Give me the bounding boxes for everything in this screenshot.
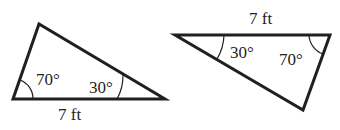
right-angle-30-label: 30° xyxy=(230,43,254,62)
right-side-label: 7 ft xyxy=(249,9,272,28)
right-triangle: 30° 70° 7 ft xyxy=(175,9,330,110)
right-angle-70-label: 70° xyxy=(279,50,303,69)
right-angle-arc-70 xyxy=(309,35,323,54)
triangles-diagram: 70° 30° 7 ft 30° 70° 7 ft xyxy=(0,0,340,130)
left-angle-arc-70 xyxy=(20,80,33,99)
left-side-label: 7 ft xyxy=(58,105,81,124)
left-angle-30-label: 30° xyxy=(89,78,113,97)
right-angle-arc-30 xyxy=(217,35,224,59)
left-angle-70-label: 70° xyxy=(36,70,60,89)
left-triangle: 70° 30° 7 ft xyxy=(13,24,165,124)
left-angle-arc-30 xyxy=(117,75,123,99)
